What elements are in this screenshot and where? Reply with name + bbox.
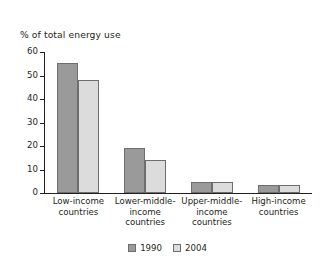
bar-2004	[212, 182, 233, 193]
category-label-line: income	[179, 207, 246, 218]
chart-legend: 19902004	[0, 243, 335, 253]
bar-1990	[57, 63, 78, 193]
legend-label: 2004	[185, 243, 207, 253]
bar-1990	[258, 185, 279, 193]
light-gray-swatch	[173, 244, 181, 252]
bar-chart-figure: % of total energy use 0102030405060 Low-…	[0, 0, 335, 280]
y-tick-mark	[40, 52, 44, 53]
legend-item-2004: 2004	[173, 243, 207, 253]
bar-1990	[191, 182, 212, 193]
y-tick-label: 60	[27, 46, 38, 57]
bar-2004	[78, 80, 99, 193]
category-label-line: countries	[179, 217, 246, 228]
legend-label: 1990	[140, 243, 162, 253]
dark-gray-swatch	[128, 244, 136, 252]
bar-group	[179, 52, 246, 193]
legend-item-1990: 1990	[128, 243, 162, 253]
y-tick-mark	[40, 193, 44, 194]
bar-1990	[124, 148, 145, 193]
y-tick-mark	[40, 170, 44, 171]
category-label: Low-incomecountries	[45, 196, 112, 217]
y-tick-label: 30	[27, 117, 38, 128]
bar-group	[112, 52, 179, 193]
y-tick-mark	[40, 76, 44, 77]
bar-group	[245, 52, 312, 193]
plot-area: 0102030405060	[44, 52, 312, 193]
category-label: Upper-middle-incomecountries	[179, 196, 246, 228]
y-axis-title: % of total energy use	[20, 29, 121, 40]
bar-group	[45, 52, 112, 193]
bar-2004	[145, 160, 166, 193]
bar-2004	[279, 185, 300, 193]
category-label-line: income	[112, 207, 179, 218]
bar-groups	[45, 52, 312, 193]
category-label-line: countries	[45, 207, 112, 218]
y-tick-label: 40	[27, 93, 38, 104]
y-tick-label: 10	[27, 164, 38, 175]
category-label-line: Low-income	[45, 196, 112, 207]
category-label: High-incomecountries	[245, 196, 312, 217]
category-label-line: High-income	[245, 196, 312, 207]
category-label: Lower-middle-incomecountries	[112, 196, 179, 228]
y-tick-label: 0	[33, 187, 38, 198]
y-tick-mark	[40, 123, 44, 124]
category-label-line: Lower-middle-	[112, 196, 179, 207]
x-axis-line	[44, 193, 312, 194]
category-label-line: countries	[112, 217, 179, 228]
category-label-line: Upper-middle-	[179, 196, 246, 207]
y-tick-mark	[40, 99, 44, 100]
y-tick-mark	[40, 146, 44, 147]
x-axis-category-labels: Low-incomecountriesLower-middle-incomeco…	[45, 196, 313, 242]
y-tick-label: 20	[27, 140, 38, 151]
y-tick-label: 50	[27, 70, 38, 81]
category-label-line: countries	[245, 207, 312, 218]
